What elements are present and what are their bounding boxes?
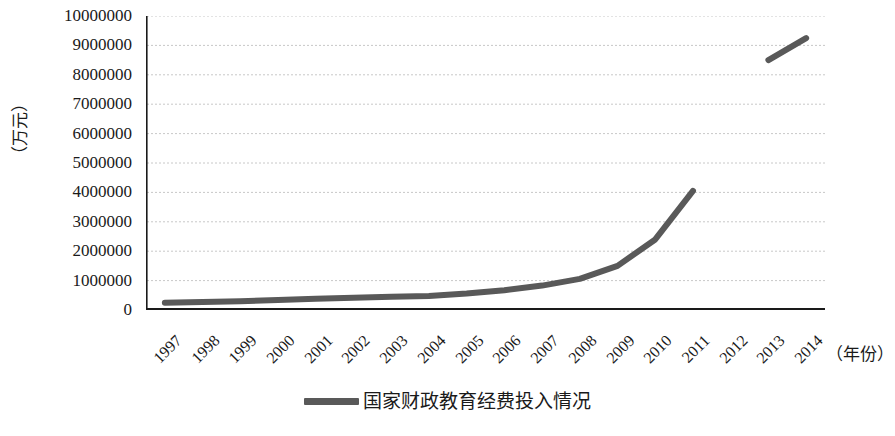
chart-container: （万元） 01000000200000030000004000000500000… — [0, 0, 895, 436]
legend-entry: 国家财政教育经费投入情况 — [304, 392, 591, 411]
legend-swatch — [304, 398, 359, 405]
x-axis-title: （年份） — [826, 346, 894, 363]
chart-legend: 国家财政教育经费投入情况 — [0, 392, 895, 411]
legend-label: 国家财政教育经费投入情况 — [363, 392, 591, 411]
x-axis-tick-labels: 1997199819992000200120022003200420052006… — [0, 0, 895, 436]
